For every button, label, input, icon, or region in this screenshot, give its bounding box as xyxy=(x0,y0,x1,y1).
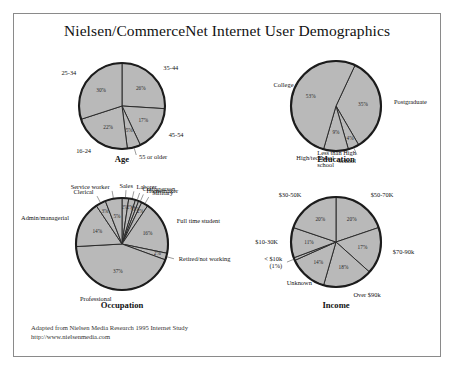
slice-percent-label: 17% xyxy=(358,244,368,250)
slice-percent-label: 53% xyxy=(306,93,316,99)
slice-percent-label: 22% xyxy=(103,124,113,130)
slice-category-label: Military xyxy=(152,190,174,197)
slice-category-label: $30-50K xyxy=(279,192,302,199)
chart-title-education: Education xyxy=(236,154,436,164)
slice-percent-label: 30% xyxy=(96,87,106,93)
pie-chart-education: 35%4%9%53%PostgraduateLess than HighScho… xyxy=(236,50,436,168)
slice-category-label: $50-70K xyxy=(371,192,394,199)
slice-category-label: Sales xyxy=(119,183,133,190)
page-title: Nielsen/CommerceNet Internet User Demogr… xyxy=(14,22,440,40)
slice-percent-label: 14% xyxy=(313,259,323,265)
slice-category-label: Retired/not working xyxy=(179,255,231,262)
slice-percent-label: 17% xyxy=(138,117,148,123)
label-leader-line xyxy=(137,193,139,200)
label-leader-line xyxy=(167,257,174,259)
pie-chart-income: 20%17%18%14%11%20%$50-70K$70-90kOver $90… xyxy=(236,182,436,312)
slice-percent-label: 11% xyxy=(304,239,314,245)
slice-percent-label: 18% xyxy=(339,264,349,270)
slice-category-label: $70-90k xyxy=(393,249,415,256)
slice-category-label: Admin/managerial xyxy=(21,214,69,221)
chart-title-age: Age xyxy=(22,154,222,164)
slice-percent-label: 5% xyxy=(126,127,134,133)
label-leader-line xyxy=(125,190,126,197)
slice-percent-label: 2% xyxy=(154,250,162,256)
slice-percent-label: 16% xyxy=(143,230,153,236)
source-line-study: Adapted from Nielsen Media Research 1995… xyxy=(31,323,188,333)
slice-percent-label: 35% xyxy=(358,101,368,107)
slice-percent-label: 20% xyxy=(347,216,357,222)
slice-category-label: Full time student xyxy=(177,218,221,225)
slice-percent-label: 20% xyxy=(315,216,325,222)
label-leader-line xyxy=(287,259,293,262)
chart-title-income: Income xyxy=(236,300,436,310)
slice-percent-label: 37% xyxy=(113,268,123,274)
slice-category-label: 25-34 xyxy=(61,70,77,77)
slice-percent-label: 5% xyxy=(113,213,121,219)
slice-category-label: $10-30K xyxy=(255,238,278,245)
slice-category-label: Unknown xyxy=(287,280,313,287)
slice-percent-label: 4% xyxy=(347,135,355,141)
poster-frame: Nielsen/CommerceNet Internet User Demogr… xyxy=(13,13,441,357)
slice-category-label: College xyxy=(274,82,294,89)
label-leader-line xyxy=(112,191,113,198)
source-note: Adapted from Nielsen Media Research 1995… xyxy=(31,323,188,342)
slice-percent-label: 9% xyxy=(332,129,340,135)
slice-category-label: 16-24 xyxy=(76,147,92,154)
slice-category-label: 35-44 xyxy=(163,64,179,71)
source-line-url: http://www.nielsenmedia.com xyxy=(31,332,188,342)
slice-category-label: Postgraduate xyxy=(394,99,427,106)
chart-title-occupation: Occupation xyxy=(22,300,222,310)
slice-percent-label: 14% xyxy=(92,228,102,234)
label-leader-line xyxy=(132,191,134,198)
slice-category-label: < $10k(1%) xyxy=(264,255,283,270)
pie-chart-age: 26%17%5%22%30%35-4445-5455 or older16-24… xyxy=(22,50,222,168)
slice-percent-label: 26% xyxy=(136,85,146,91)
slice-category-label: 45-54 xyxy=(169,132,185,139)
pie-chart-occupation: 2%2%1%1%2%16%2%37%14%3%5%SalesLaborerCra… xyxy=(22,182,222,312)
slice-category-label: Service worker xyxy=(71,183,111,190)
slice-category-label: Over $90k xyxy=(353,291,381,298)
label-leader-line xyxy=(97,196,100,202)
label-leader-line xyxy=(141,194,144,200)
label-leader-line xyxy=(145,197,148,203)
